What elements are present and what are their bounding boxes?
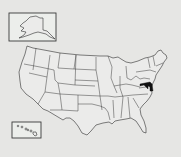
us-locator-map <box>0 0 181 157</box>
alaska-inset <box>9 13 56 41</box>
hawaii-inset <box>12 122 41 138</box>
